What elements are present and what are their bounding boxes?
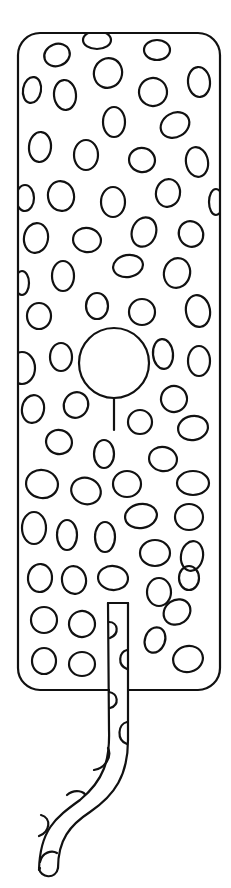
spot bbox=[52, 261, 74, 291]
spot bbox=[53, 79, 78, 111]
spot bbox=[184, 145, 211, 178]
spot bbox=[31, 607, 57, 633]
spot bbox=[154, 177, 182, 209]
spot bbox=[59, 388, 93, 423]
spot bbox=[64, 606, 100, 642]
spot bbox=[46, 179, 77, 213]
spot bbox=[32, 648, 56, 674]
spot bbox=[187, 66, 212, 98]
spot bbox=[128, 410, 152, 434]
spot bbox=[97, 565, 129, 592]
tail bbox=[39, 603, 128, 876]
spot bbox=[123, 501, 159, 530]
tail-tip bbox=[39, 868, 58, 876]
spot bbox=[111, 253, 144, 280]
center-circle bbox=[79, 328, 149, 430]
spot bbox=[113, 471, 141, 497]
spot bbox=[57, 520, 77, 550]
spot bbox=[41, 40, 73, 70]
spot bbox=[144, 40, 170, 60]
spot bbox=[27, 303, 51, 329]
spot bbox=[101, 187, 125, 217]
spot bbox=[140, 540, 170, 566]
tail-spot bbox=[119, 722, 127, 744]
spot bbox=[128, 214, 161, 250]
spot bbox=[71, 226, 103, 254]
tail-spot bbox=[109, 692, 117, 708]
spot bbox=[174, 217, 208, 252]
giraffe-pattern-illustration bbox=[0, 0, 231, 888]
spot bbox=[67, 474, 104, 509]
spot bbox=[175, 504, 203, 530]
spot bbox=[161, 255, 194, 291]
spot bbox=[69, 652, 95, 676]
spot bbox=[24, 467, 60, 500]
spot bbox=[147, 578, 171, 606]
spot bbox=[27, 563, 53, 593]
center-circle-outline bbox=[79, 328, 149, 398]
tail-spot bbox=[40, 852, 57, 862]
spot bbox=[147, 445, 179, 473]
spot bbox=[43, 427, 74, 457]
spot bbox=[177, 471, 209, 495]
spot bbox=[188, 346, 210, 376]
drawing-canvas: Giraffe-pattern body with tail (line art… bbox=[0, 0, 231, 888]
spot bbox=[74, 140, 98, 170]
spot bbox=[22, 512, 46, 544]
spot bbox=[127, 146, 157, 174]
spot bbox=[141, 624, 169, 655]
spot bbox=[95, 522, 115, 552]
spot bbox=[21, 76, 43, 105]
spot bbox=[50, 343, 72, 371]
tail-spot bbox=[94, 748, 109, 770]
spot bbox=[86, 293, 108, 319]
spot bbox=[152, 338, 175, 370]
spot bbox=[159, 594, 196, 630]
spot bbox=[156, 107, 194, 143]
spot bbox=[9, 352, 35, 384]
spot bbox=[28, 131, 53, 163]
spot bbox=[134, 73, 172, 111]
spot bbox=[129, 299, 155, 325]
spot bbox=[22, 221, 51, 255]
spot bbox=[94, 440, 114, 468]
spot bbox=[176, 414, 210, 443]
spot bbox=[103, 107, 125, 137]
spot bbox=[90, 54, 127, 92]
spot bbox=[157, 382, 190, 415]
tail-edge-left bbox=[39, 603, 109, 870]
spot bbox=[20, 393, 47, 424]
tail-spot bbox=[67, 791, 85, 795]
spot bbox=[170, 643, 206, 676]
spot bbox=[60, 564, 88, 596]
spot bbox=[183, 293, 212, 329]
